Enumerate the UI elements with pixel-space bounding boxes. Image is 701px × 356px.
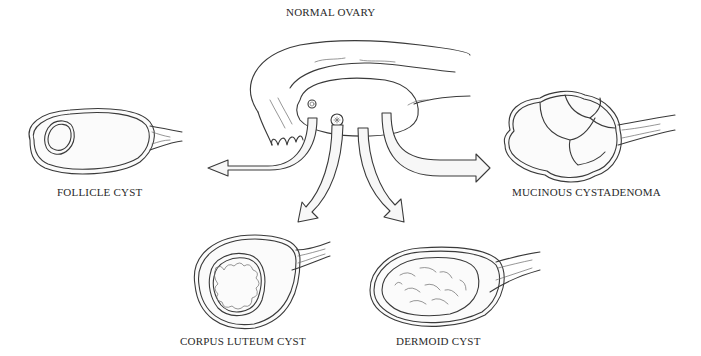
arrow-to-follicle-cyst <box>208 118 317 176</box>
normal-ovary-label: NORMAL OVARY <box>286 6 376 18</box>
follicle-cyst-illustration <box>29 109 182 174</box>
corpus-luteum-cyst-label: CORPUS LUTEUM CYST <box>180 335 306 347</box>
mucinous-cystadenoma-label: MUCINOUS CYSTADENOMA <box>512 186 661 198</box>
dermoid-cyst-illustration <box>370 247 540 326</box>
ovarian-cyst-diagram: NORMAL OVARY FOLLICLE CYST MUCINOUS CYST… <box>0 0 701 356</box>
arrow-to-mucinous-cystadenoma <box>382 113 490 182</box>
diagram-illustration <box>0 0 701 356</box>
corpus-luteum-cyst-illustration <box>194 235 330 329</box>
mucinous-cystadenoma-illustration <box>504 91 675 182</box>
follicle-cyst-label: FOLLICLE CYST <box>57 186 142 198</box>
dermoid-cyst-label: DERMOID CYST <box>396 335 481 347</box>
